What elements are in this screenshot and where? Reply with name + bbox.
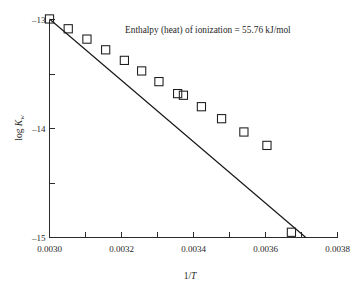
data-point-marker <box>138 67 146 75</box>
y-tick-label: –13 <box>31 15 46 25</box>
y-axis-title-group: log Kw <box>14 115 25 141</box>
y-tick-label: –14 <box>31 124 46 134</box>
data-point-marker <box>120 56 128 64</box>
data-point-marker <box>83 35 91 43</box>
data-point-marker <box>240 128 248 136</box>
data-point-marker <box>64 25 72 33</box>
x-axis-title: 1/T <box>184 271 197 281</box>
x-tick-label: 0.0032 <box>109 244 134 254</box>
data-point-marker <box>197 103 205 111</box>
x-tick-label: 0.0038 <box>325 244 350 254</box>
x-tick-label: 0.0034 <box>181 244 206 254</box>
linear-fit-line <box>50 19 306 238</box>
data-point-marker <box>102 46 110 54</box>
data-point-marker <box>45 15 53 23</box>
y-tick-label: –15 <box>31 233 46 243</box>
data-point-marker <box>155 78 163 86</box>
y-axis-tick-labels: –13–14–15 <box>31 15 46 243</box>
data-point-marker <box>179 91 187 99</box>
data-point-marker <box>263 141 271 149</box>
x-axis-tick-labels: 0.00300.00320.00340.00360.0038 <box>37 244 350 254</box>
y-axis-title: log Kw <box>14 115 25 141</box>
data-point-marker <box>287 228 295 236</box>
x-tick-label: 0.0030 <box>37 244 62 254</box>
chart-figure: 0.00300.00320.00340.00360.0038 –13–14–15… <box>0 0 362 295</box>
x-tick-label: 0.0036 <box>253 244 278 254</box>
data-point-marker <box>217 115 225 123</box>
enthalpy-ionization-scatter-plot: 0.00300.00320.00340.00360.0038 –13–14–15… <box>0 0 362 295</box>
plot-axes <box>50 20 338 238</box>
y-axis-ticks <box>50 20 56 238</box>
data-trend-line <box>50 19 306 238</box>
enthalpy-annotation: Enthalpy (heat) of ionization = 55.76 kJ… <box>125 25 291 36</box>
chart-annotations: Enthalpy (heat) of ionization = 55.76 kJ… <box>125 25 291 36</box>
